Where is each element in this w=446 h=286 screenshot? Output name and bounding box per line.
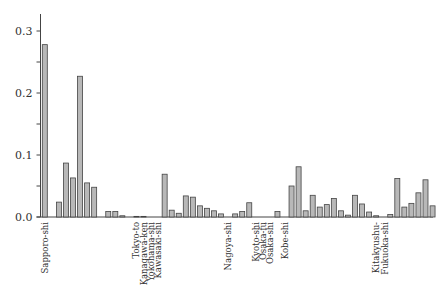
bar bbox=[169, 210, 174, 217]
bar bbox=[331, 198, 336, 217]
category-label: Osaka-shi bbox=[265, 222, 275, 264]
bar bbox=[190, 197, 195, 217]
category-labels: Sapporo-shiTokyo-toKanagawa-kenYokohama-… bbox=[40, 221, 390, 285]
bar bbox=[141, 216, 146, 217]
bar bbox=[296, 167, 301, 217]
bar bbox=[367, 212, 372, 217]
bar bbox=[219, 214, 224, 217]
bar bbox=[423, 180, 428, 217]
bar bbox=[402, 207, 407, 217]
bar bbox=[353, 195, 358, 217]
category-label: Kawasaki-shi bbox=[153, 222, 163, 279]
y-tick-label: 0.0 bbox=[15, 211, 33, 224]
bar bbox=[416, 193, 421, 217]
y-tick-label: 0.3 bbox=[15, 25, 33, 38]
bar bbox=[85, 183, 90, 217]
category-label: Nagoya-shi bbox=[223, 222, 233, 271]
bar bbox=[275, 211, 280, 217]
bar bbox=[212, 211, 217, 217]
bar bbox=[374, 216, 379, 217]
bar bbox=[310, 195, 315, 217]
bar bbox=[233, 214, 238, 217]
bars bbox=[42, 45, 435, 217]
bar bbox=[395, 179, 400, 217]
bar bbox=[303, 211, 308, 217]
bar bbox=[204, 208, 209, 217]
category-label: Fukuoka-shi bbox=[380, 222, 390, 275]
bar bbox=[176, 213, 181, 217]
bar bbox=[56, 202, 61, 217]
bar bbox=[92, 187, 97, 217]
bar bbox=[162, 174, 167, 217]
bar bbox=[430, 206, 435, 217]
bar bbox=[247, 203, 252, 217]
bar bbox=[345, 215, 350, 217]
bar bbox=[42, 45, 47, 217]
bar bbox=[63, 163, 68, 217]
category-label: Kobe-shi bbox=[280, 222, 290, 259]
bar bbox=[360, 204, 365, 217]
y-tick-label: 0.2 bbox=[15, 87, 33, 100]
bar bbox=[183, 196, 188, 217]
bar bbox=[120, 216, 125, 217]
bar bbox=[71, 178, 76, 217]
bar bbox=[134, 216, 139, 217]
bar bbox=[106, 211, 111, 217]
bar-chart: 0.00.10.20.3 Sapporo-shiTokyo-toKanagawa… bbox=[0, 0, 446, 286]
bar bbox=[289, 186, 294, 217]
bar bbox=[338, 211, 343, 217]
bar bbox=[317, 207, 322, 217]
bar bbox=[388, 215, 393, 217]
bar bbox=[197, 206, 202, 217]
y-tick-label: 0.1 bbox=[15, 149, 33, 162]
bar bbox=[113, 211, 118, 217]
category-label: Sapporo-shi bbox=[40, 222, 50, 274]
bar bbox=[409, 203, 414, 217]
bar bbox=[240, 211, 245, 217]
bar bbox=[324, 205, 329, 217]
bar bbox=[78, 76, 83, 217]
